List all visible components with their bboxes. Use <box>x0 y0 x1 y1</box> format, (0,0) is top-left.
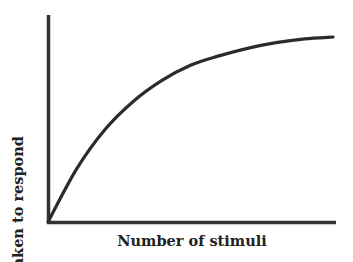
y-axis-label: Time taken to respond <box>6 118 30 262</box>
x-axis-label: Number of stimuli <box>48 232 336 249</box>
response-curve <box>48 37 333 222</box>
chart-canvas <box>0 0 353 262</box>
